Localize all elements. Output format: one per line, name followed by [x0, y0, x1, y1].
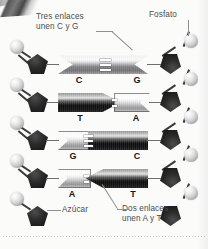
phosphate-sphere	[184, 72, 198, 86]
phosphate-sphere	[10, 78, 24, 92]
phosphate-sphere	[184, 110, 198, 124]
annotation-phosphate: Fosfato	[149, 10, 177, 20]
glycosidic-bond	[149, 102, 161, 103]
base-letter-right: C	[130, 151, 144, 161]
base-letter-right: G	[130, 75, 144, 85]
glycosidic-bond	[46, 178, 59, 179]
annotation-bonds-cg: Tres enlaces unen C y G	[36, 12, 84, 31]
glycosidic-bond	[46, 64, 59, 65]
base-body-right	[88, 131, 148, 150]
phosphate-sphere	[184, 148, 198, 162]
phosphate-sphere	[10, 192, 24, 206]
leader-line-at	[117, 209, 129, 210]
annotation-bonds-at: Dos enlaces unen A y T	[122, 204, 168, 223]
base-letter-left: G	[66, 151, 80, 161]
leader-line-sugar	[47, 210, 61, 211]
dotted-divider-rule	[3, 236, 205, 237]
glycosidic-bond	[147, 178, 161, 179]
sugar-pentagon	[160, 130, 181, 150]
sugar-pentagon	[160, 168, 181, 188]
base-body-right	[114, 93, 150, 112]
base-letter-right: T	[126, 189, 140, 199]
leader-line-cg	[111, 31, 132, 50]
glycosidic-bond	[147, 140, 161, 141]
sugar-pentagon	[160, 92, 181, 112]
glycosidic-bond	[46, 102, 59, 103]
base-letter-left: T	[73, 113, 87, 123]
phosphate-sphere	[184, 186, 198, 200]
phosphate-sphere	[10, 116, 24, 130]
dna-figure: C G T A G C	[0, 0, 208, 249]
base-letter-left: C	[72, 75, 86, 85]
annotation-sugar: Azúcar	[62, 205, 88, 215]
glycosidic-bond	[147, 64, 161, 65]
phosphate-sphere	[184, 34, 198, 48]
leader-line-phosphate	[188, 20, 189, 36]
phosphate-sphere	[10, 40, 24, 54]
sugar-pentagon	[160, 54, 181, 74]
phosphate-sphere	[10, 154, 24, 168]
scan-artifact-corner	[0, 0, 41, 18]
base-body-left	[58, 93, 120, 112]
glycosidic-bond	[46, 140, 59, 141]
base-body-right	[86, 169, 148, 188]
base-letter-right: A	[129, 113, 143, 123]
page-edge-shading	[198, 0, 208, 249]
base-letter-left: A	[65, 189, 79, 199]
